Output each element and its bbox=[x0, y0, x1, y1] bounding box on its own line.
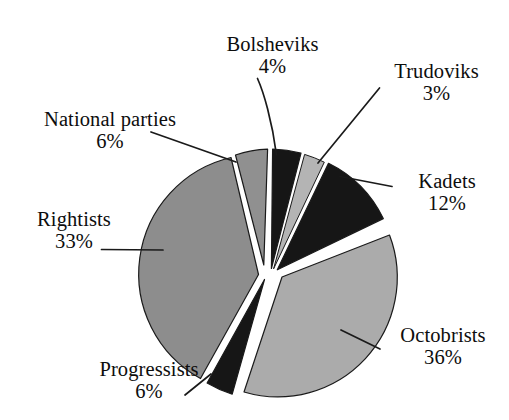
slice-label-bolsheviks-name: Bolsheviks bbox=[205, 33, 340, 55]
slice-label-rightists: Rightists 33% bbox=[14, 208, 134, 252]
slice-label-national-parties: National parties 6% bbox=[16, 108, 204, 152]
leader-line-bolsheviks bbox=[258, 79, 277, 156]
slice-label-kadets-percent: 12% bbox=[392, 192, 502, 214]
slice-label-national-parties-name: National parties bbox=[16, 108, 204, 130]
slice-label-progressists-percent: 6% bbox=[74, 380, 224, 402]
slice-label-trudoviks-percent: 3% bbox=[374, 82, 499, 104]
slice-label-kadets-name: Kadets bbox=[392, 170, 502, 192]
slice-label-kadets: Kadets 12% bbox=[392, 170, 502, 214]
slice-label-octobrists-name: Octobrists bbox=[381, 324, 505, 346]
leader-line-trudoviks bbox=[318, 88, 380, 163]
slice-label-octobrists: Octobrists 36% bbox=[381, 324, 505, 368]
slice-label-rightists-percent: 33% bbox=[14, 230, 134, 252]
slice-label-progressists: Progressists 6% bbox=[74, 358, 224, 402]
slice-label-trudoviks-name: Trudoviks bbox=[374, 60, 499, 82]
slice-label-rightists-name: Rightists bbox=[14, 208, 134, 230]
slice-label-national-parties-percent: 6% bbox=[16, 130, 204, 152]
slice-label-bolsheviks: Bolsheviks 4% bbox=[205, 33, 340, 77]
slice-label-octobrists-percent: 36% bbox=[381, 346, 505, 368]
pie-slice-octobrists bbox=[244, 235, 397, 397]
slice-label-bolsheviks-percent: 4% bbox=[205, 55, 340, 77]
pie-chart-figure: Bolsheviks 4% Trudoviks 3% Kadets 12% Oc… bbox=[0, 0, 509, 420]
slice-label-progressists-name: Progressists bbox=[74, 358, 224, 380]
slice-label-trudoviks: Trudoviks 3% bbox=[374, 60, 499, 104]
